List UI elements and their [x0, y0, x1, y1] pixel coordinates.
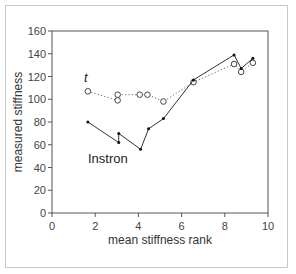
y-tick-label: 140: [28, 48, 46, 60]
series-line-instron: [88, 55, 253, 149]
series-label-t: t: [84, 70, 89, 85]
x-tick-label: 6: [179, 220, 185, 232]
x-tick-label: 8: [222, 220, 228, 232]
y-tick-label: 20: [34, 184, 46, 196]
y-tick-label: 120: [28, 71, 46, 83]
y-tick-label: 60: [34, 139, 46, 151]
series-label-instron: Instron: [88, 151, 128, 166]
stiffness-chart: 0204060801001201401600246810 measured st…: [0, 0, 296, 274]
data-point-open-circle: [115, 92, 121, 98]
data-point-filled: [139, 148, 142, 151]
x-tick-label: 4: [135, 220, 141, 232]
x-tick-label: 2: [92, 220, 98, 232]
data-point-open-circle: [115, 98, 121, 104]
data-point-filled: [233, 53, 236, 56]
data-point-filled: [117, 141, 120, 144]
data-point-filled: [192, 78, 195, 81]
data-point-open-circle: [161, 99, 167, 105]
data-point-filled: [147, 127, 150, 130]
y-tick-label: 40: [34, 162, 46, 174]
data-point-open-circle: [137, 92, 143, 98]
data-point-open-circle: [231, 61, 237, 67]
y-axis-title: measured stiffness: [11, 72, 25, 173]
data-point-open-circle: [145, 92, 151, 98]
y-tick-label: 0: [40, 207, 46, 219]
data-point-filled: [251, 57, 254, 60]
x-tick-label: 10: [262, 220, 274, 232]
data-point-filled: [162, 117, 165, 120]
plot-series: [85, 53, 256, 150]
y-tick-label: 160: [28, 25, 46, 37]
data-point-filled: [117, 132, 120, 135]
data-point-open-circle: [85, 88, 91, 94]
y-tick-label: 80: [34, 116, 46, 128]
plot-axes: 0204060801001201401600246810: [28, 25, 274, 232]
data-point-filled: [86, 121, 89, 124]
x-axis-title: mean stiffness rank: [108, 233, 213, 247]
data-point-open-circle: [250, 60, 256, 66]
y-tick-label: 100: [28, 93, 46, 105]
data-point-filled: [240, 67, 243, 70]
x-tick-label: 0: [49, 220, 55, 232]
series-line-t: [88, 63, 253, 102]
